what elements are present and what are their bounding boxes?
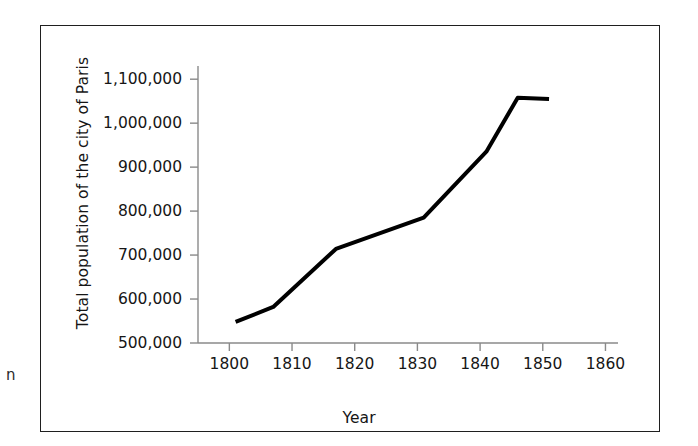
x-axis-tick-label: 1800 xyxy=(210,355,249,373)
y-axis-tick-label: 1,000,000 xyxy=(103,114,182,132)
y-axis-tick-label: 700,000 xyxy=(118,246,182,264)
y-axis-tick-label: 800,000 xyxy=(118,202,182,220)
x-axis-tick-label: 1860 xyxy=(586,355,625,373)
plot-stage: 500,000600,000700,000800,000900,0001,000… xyxy=(41,26,659,431)
x-axis-tick-label: 1830 xyxy=(398,355,437,373)
x-axis-tick-label: 1810 xyxy=(272,355,311,373)
y-axis-tick-label: 900,000 xyxy=(118,158,182,176)
x-axis-title: Year xyxy=(41,409,659,427)
x-axis-tick-label: 1820 xyxy=(335,355,374,373)
y-axis-tick-label: 500,000 xyxy=(118,334,182,352)
y-axis-tick-marks xyxy=(190,79,198,343)
figure-frame: 500,000600,000700,000800,000900,0001,000… xyxy=(40,25,660,432)
axis-lines xyxy=(198,66,618,343)
population-series-line xyxy=(236,98,549,322)
y-axis-tick-label: 1,100,000 xyxy=(103,70,182,88)
x-axis-tick-marks xyxy=(229,343,605,351)
y-axis-title: Total population of the city of Paris xyxy=(74,43,92,343)
x-axis-tick-label: 1840 xyxy=(460,355,499,373)
y-axis-tick-label: 600,000 xyxy=(118,290,182,308)
x-axis-tick-label: 1850 xyxy=(523,355,562,373)
scan-page-artifact-glyph: n xyxy=(6,368,16,383)
